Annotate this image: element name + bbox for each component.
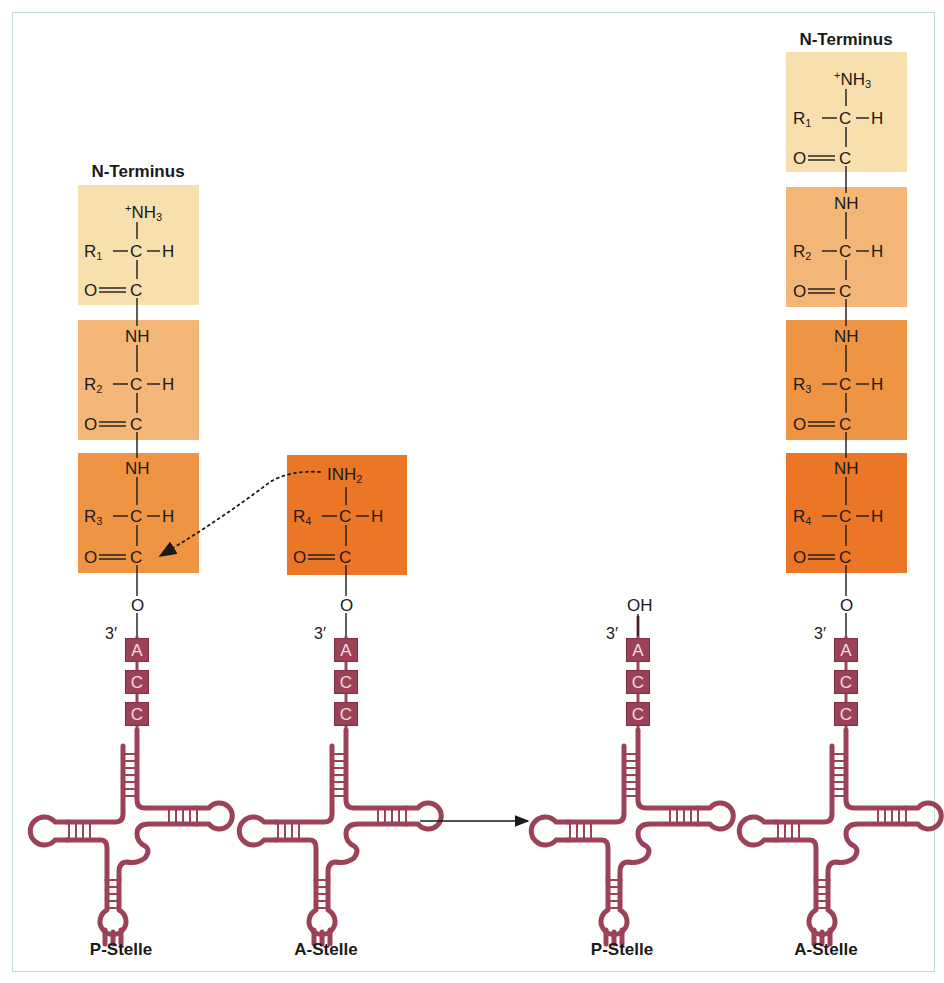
alpha-carbon-1-after: C [839, 110, 851, 127]
ester-oxygen-after: O [840, 597, 853, 614]
r1-group: R1 [84, 243, 102, 262]
hydrogen-1: H [162, 243, 174, 260]
trna-p-site-before [30, 730, 232, 944]
alpha-carbon-3: C [130, 508, 142, 525]
site-label-p-after: P-Stelle [552, 940, 692, 960]
site-label-a-before: A-Stelle [256, 940, 396, 960]
trna-a-site-after [739, 730, 941, 944]
ester-oxygen-p-site: O [131, 597, 144, 614]
carbonyl-c-1: C [130, 282, 142, 299]
alpha-carbon-2: C [130, 376, 142, 393]
carbonyl-o-1-after: O [793, 150, 806, 167]
nh3-plus-1: +NH3 [125, 203, 162, 223]
nucleotide-c-4a: C [834, 670, 858, 694]
three-prime-label-2: 3′ [314, 625, 326, 643]
site-label-a-after: A-Stelle [756, 940, 896, 960]
r4-group-after: R4 [793, 508, 811, 527]
carbonyl-o-2-after: O [793, 283, 806, 300]
r2-group: R2 [84, 376, 102, 395]
trna-a-site-before [239, 730, 441, 944]
alpha-carbon-3-after: C [839, 376, 851, 393]
nucleotide-c-4b: C [834, 702, 858, 726]
nucleotide-a-4: A [834, 638, 858, 662]
three-prime-label-3: 3′ [606, 625, 618, 643]
three-prime-label-1: 3′ [105, 625, 117, 643]
hydrogen-3: H [162, 508, 174, 525]
r4-group: R4 [293, 508, 311, 527]
nucleotide-c-1a: C [125, 670, 149, 694]
alpha-carbon-2-after: C [839, 243, 851, 260]
carbonyl-o-1: O [84, 282, 97, 299]
hydrogen-1-after: H [871, 110, 883, 127]
amide-nh-3: NH [125, 460, 150, 477]
amino-nh2: INH2 [327, 466, 362, 485]
ester-oxygen-a-site: O [340, 597, 353, 614]
carbonyl-c-1-after: C [839, 150, 851, 167]
carbonyl-c-2: C [130, 416, 142, 433]
alpha-carbon-4-after: C [839, 508, 851, 525]
hydroxyl-group: OH [627, 597, 653, 614]
nucleotide-c-3a: C [626, 670, 650, 694]
nucleotide-c-1b: C [125, 702, 149, 726]
nh3-plus-after: +NH3 [834, 70, 871, 90]
amide-nh-2: NH [125, 328, 150, 345]
carbonyl-c-3-after: C [839, 416, 851, 433]
three-prime-label-4: 3′ [814, 625, 826, 643]
carbonyl-c-4-after: C [839, 549, 851, 566]
hydrogen-2-after: H [871, 243, 883, 260]
r2-group-after: R2 [793, 243, 811, 262]
amide-nh-4-after: NH [834, 460, 859, 477]
diagram-graphics [0, 0, 944, 983]
hydrogen-4-after: H [871, 508, 883, 525]
hydrogen-3-after: H [871, 376, 883, 393]
carbonyl-o-3-after: O [793, 416, 806, 433]
amide-nh-2-after: NH [834, 195, 859, 212]
nucleotide-a-3: A [626, 638, 650, 662]
carbonyl-o-3: O [84, 549, 97, 566]
alpha-carbon-4: C [339, 508, 351, 525]
r1-group-after: R1 [793, 110, 811, 129]
amide-nh-3-after: NH [834, 328, 859, 345]
alpha-carbon-1: C [130, 243, 142, 260]
site-label-p-before: P-Stelle [51, 940, 191, 960]
r3-group-after: R3 [793, 376, 811, 395]
carbonyl-o-4: O [293, 549, 306, 566]
trna-p-site-after [531, 730, 733, 944]
nucleotide-a-1: A [125, 638, 149, 662]
nucleotide-c-2a: C [334, 670, 358, 694]
nucleotide-c-3b: C [626, 702, 650, 726]
carbonyl-c-2-after: C [839, 283, 851, 300]
nucleotide-c-2b: C [334, 702, 358, 726]
nucleotide-a-2: A [334, 638, 358, 662]
r3-group: R3 [84, 508, 102, 527]
carbonyl-c-3: C [130, 549, 142, 566]
hydrogen-2: H [162, 376, 174, 393]
carbonyl-o-4-after: O [793, 549, 806, 566]
hydrogen-4: H [371, 508, 383, 525]
carbonyl-c-4: C [339, 549, 351, 566]
carbonyl-o-2: O [84, 416, 97, 433]
